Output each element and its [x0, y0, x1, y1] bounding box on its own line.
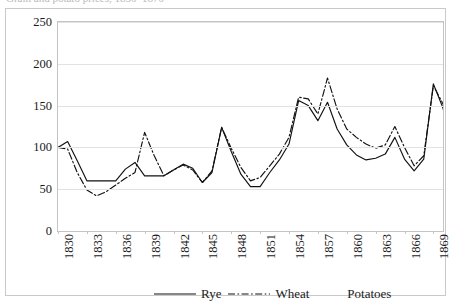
- chart-container: 050100150200250 183018331836183918421845…: [5, 8, 446, 296]
- legend-label-potatoes: Potatoes: [347, 286, 391, 302]
- x-tick-label-1845: 1845: [207, 234, 220, 259]
- x-tick-mark-1836: [116, 231, 117, 234]
- x-tick-label-1839: 1839: [150, 234, 163, 259]
- x-tick-label-1836: 1836: [121, 234, 134, 259]
- caption-text: Grain and potato prices, 1830–1870: [6, 0, 164, 4]
- x-tick-label-1842: 1842: [179, 234, 192, 259]
- x-tick-mark-1869: [433, 231, 434, 234]
- y-tick-label-250: 250: [33, 16, 52, 29]
- x-tick-label-1848: 1848: [236, 234, 249, 259]
- cropped-caption-strip: Grain and potato prices, 1830–1870: [0, 0, 451, 7]
- x-tick-mark-1842: [174, 231, 175, 234]
- y-tick-label-150: 150: [33, 99, 52, 112]
- x-tick-mark-1833: [87, 231, 88, 234]
- x-tick-mark-1851: [260, 231, 261, 234]
- legend-item-rye[interactable]: Rye: [153, 286, 221, 302]
- plot-area: [57, 21, 444, 232]
- x-tick-label-1854: 1854: [294, 234, 307, 259]
- y-axis: 050100150200250: [11, 21, 55, 232]
- x-tick-mark-1839: [145, 231, 146, 234]
- x-axis: 1830183318361839184218451848185118541857…: [57, 234, 444, 278]
- plot-lines: [58, 22, 443, 231]
- x-tick-mark-1860: [347, 231, 348, 234]
- chart-figure: Grain and potato prices, 1830–1870 05010…: [0, 0, 451, 302]
- x-tick-mark-1857: [318, 231, 319, 234]
- legend-item-potatoes[interactable]: Potatoes: [347, 286, 391, 302]
- y-tick-label-100: 100: [33, 141, 52, 154]
- x-tick-mark-1863: [376, 231, 377, 234]
- gridline-250: [58, 22, 443, 23]
- x-tick-mark-1866: [405, 231, 406, 234]
- x-tick-label-1857: 1857: [323, 234, 336, 259]
- x-tick-label-1863: 1863: [381, 234, 394, 259]
- y-tick-label-0: 0: [46, 225, 52, 238]
- x-tick-mark-1845: [202, 231, 203, 234]
- x-tick-mark-1848: [231, 231, 232, 234]
- gridline-50: [58, 189, 443, 190]
- legend-label-wheat: Wheat: [275, 286, 309, 302]
- legend-label-rye: Rye: [201, 286, 221, 302]
- x-tick-label-1830: 1830: [63, 234, 76, 259]
- gridline-150: [58, 106, 443, 107]
- x-tick-mark-1854: [289, 231, 290, 234]
- legend-line-sample-rye: [153, 289, 197, 299]
- x-tick-label-1833: 1833: [92, 234, 105, 259]
- series-line-rye: [58, 84, 443, 187]
- chart-legend: RyeWheatPotatoes: [57, 284, 444, 302]
- x-tick-label-1869: 1869: [438, 234, 451, 259]
- gridline-100: [58, 147, 443, 148]
- x-tick-label-1866: 1866: [410, 234, 423, 259]
- series-line-wheat: [58, 78, 443, 196]
- y-tick-label-200: 200: [33, 58, 52, 71]
- x-tick-mark-1830: [58, 231, 59, 234]
- legend-item-wheat[interactable]: Wheat: [227, 286, 309, 302]
- x-tick-label-1851: 1851: [265, 234, 278, 259]
- x-tick-label-1860: 1860: [352, 234, 365, 259]
- gridline-200: [58, 64, 443, 65]
- legend-line-sample-wheat: [227, 289, 271, 299]
- y-tick-label-50: 50: [40, 183, 53, 196]
